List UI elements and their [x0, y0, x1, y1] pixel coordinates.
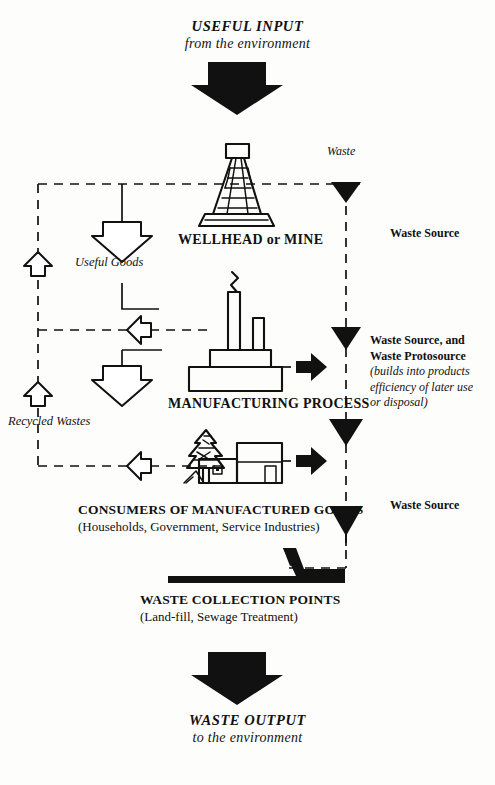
manufacturing-input-arrow	[92, 366, 152, 406]
oil-derrick-icon	[199, 144, 274, 226]
useful-input-line2: from the environment	[0, 36, 495, 52]
protosource-note3: or disposal)	[370, 395, 473, 411]
waste-flow-label: Waste	[327, 144, 355, 159]
recycle-direction-chevron-mid	[127, 316, 151, 344]
houses-and-tree-icon	[184, 430, 282, 483]
protosource-line2: Waste Protosource	[370, 349, 473, 365]
useful-input-line1: USEFUL INPUT	[192, 18, 304, 34]
waste-output-line1: WASTE OUTPUT	[189, 712, 306, 728]
waste-pile-icon	[168, 548, 345, 583]
waste-source-label-wellhead: Waste Source	[390, 226, 459, 241]
waste-output-arrow	[191, 652, 283, 705]
recycled-wastes-label: Recycled Wastes	[8, 414, 91, 429]
waste-output-caption: WASTE OUTPUT to the environment	[0, 712, 495, 746]
consumers-title: CONSUMERS OF MANUFACTURED GOODS	[78, 502, 364, 517]
waste-source-label-consumers: Waste Source	[390, 498, 459, 513]
waste-arrowhead-manufacturing	[331, 327, 361, 350]
waste-output-line2: to the environment	[0, 730, 495, 746]
consumers-waste-arrow	[296, 447, 327, 475]
recycle-direction-chevron-bottom	[127, 452, 151, 480]
protosource-note1: (builds into products	[370, 364, 473, 380]
useful-goods-label: Useful Goods	[75, 255, 143, 270]
manufacturing-input-connector	[122, 350, 162, 366]
waste-arrowhead-wellhead	[331, 182, 361, 203]
consumers-label: CONSUMERS OF MANUFACTURED GOODS (Househo…	[78, 502, 364, 535]
factory-waste-arrow	[296, 353, 327, 381]
useful-input-caption: USEFUL INPUT from the environment	[0, 18, 495, 52]
waste-arrowhead-consumers	[329, 419, 363, 446]
factory-icon	[189, 272, 282, 391]
recycle-direction-chevron-lower	[24, 382, 52, 406]
recycle-direction-chevron-upper	[24, 252, 52, 276]
wellhead-label: WELLHEAD or MINE	[178, 232, 323, 248]
collection-label: WASTE COLLECTION POINTS (Land-fill, Sewa…	[140, 592, 340, 625]
manufacturing-label: MANUFACTURING PROCESS	[168, 396, 370, 412]
collection-title: WASTE COLLECTION POINTS	[140, 592, 340, 607]
protosource-note2: efficiency of later use	[370, 380, 473, 396]
collection-sublabel: (Land-fill, Sewage Treatment)	[140, 609, 340, 625]
consumers-sublabel: (Households, Government, Service Industr…	[78, 519, 364, 535]
protosource-line1: Waste Source, and	[370, 333, 473, 349]
diagram-canvas: .ink{fill:#111;} .hollow{fill:#fff;strok…	[0, 0, 495, 785]
useful-input-arrow	[191, 62, 283, 115]
useful-goods-elbow	[122, 283, 159, 309]
waste-protosource-annotation: Waste Source, and Waste Protosource (bui…	[370, 333, 473, 411]
